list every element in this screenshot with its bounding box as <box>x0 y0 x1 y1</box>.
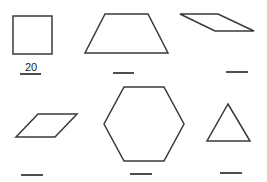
square-shape <box>13 16 52 54</box>
square-answer-label: 20 <box>25 62 37 73</box>
rhombus-shape <box>180 14 254 31</box>
shapes-diagram <box>0 0 267 182</box>
hexagon-shape <box>104 87 184 161</box>
trapezoid-shape <box>85 14 168 53</box>
triangle-shape <box>207 104 250 141</box>
parallelogram-shape <box>16 114 77 137</box>
